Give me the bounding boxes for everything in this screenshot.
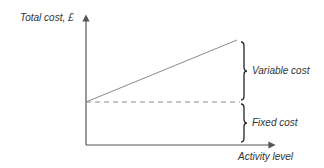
total-cost-line <box>86 40 237 102</box>
variable-cost-brace <box>241 42 247 100</box>
variable-cost-label: Variable cost <box>252 65 311 76</box>
fixed-cost-brace <box>241 104 247 142</box>
x-axis-label: Activity level <box>237 151 294 162</box>
fixed-cost-label: Fixed cost <box>252 117 299 128</box>
cost-diagram: Total cost, £ Variable cost Fixed cost A… <box>0 0 324 168</box>
y-axis-label: Total cost, £ <box>20 12 74 23</box>
